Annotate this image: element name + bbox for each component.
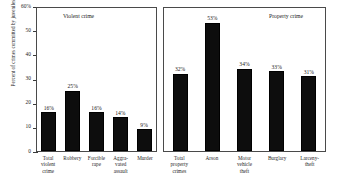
bar-value-label: 14%	[115, 110, 125, 116]
bar-value-label: 9%	[140, 122, 147, 128]
category-label: Burglary	[261, 155, 294, 189]
bar-slot: 16%	[37, 6, 61, 151]
bar	[41, 112, 56, 151]
bar	[65, 91, 80, 151]
category-label: Forciblerape	[84, 155, 108, 189]
y-axis-tick-label: 50	[26, 27, 31, 33]
bar-slot: 34%	[228, 6, 260, 151]
y-axis-tick-label: 10	[26, 123, 31, 129]
bar-value-label: 31%	[304, 69, 314, 75]
category-label: Motorvehicletheft	[228, 155, 261, 189]
category-labels-property-crime: TotalpropertycrimesArsonMotorvehiclethef…	[163, 155, 326, 189]
panel-violent-crime-bars: 16%25%16%14%9%	[37, 6, 156, 151]
bar-slot: 14%	[108, 6, 132, 151]
bar-slot: 32%	[164, 6, 196, 151]
bar-value-label: 16%	[44, 105, 54, 111]
bar-value-label: 53%	[207, 15, 217, 21]
panel-property-crime-bars: 32%53%34%33%31%	[164, 6, 325, 151]
category-label: Arson	[196, 155, 229, 189]
y-axis-tick-label: 60%	[21, 3, 31, 9]
bar-value-label: 16%	[91, 105, 101, 111]
bar-slot: 53%	[196, 6, 228, 151]
category-label: Larceny-theft	[293, 155, 326, 189]
bar-slot: 31%	[293, 6, 325, 151]
bar	[89, 112, 104, 151]
bar	[205, 23, 220, 151]
bar-slot: 33%	[261, 6, 293, 151]
y-axis: 60%50403020100	[0, 0, 40, 158]
y-axis-tick-mark	[33, 152, 38, 153]
bar-value-label: 34%	[239, 61, 249, 67]
bar	[301, 76, 316, 151]
category-label: Robbery	[60, 155, 84, 189]
chart-figure: Percent of crimes committed by juveniles…	[0, 0, 338, 190]
panel-property-crime: Property crime 32%53%34%33%31%	[163, 7, 326, 152]
category-label-row: TotalviolentcrimeRobberyForciblerapeAggr…	[36, 155, 326, 189]
bar	[113, 117, 128, 151]
bar-value-label: 33%	[272, 64, 282, 70]
bar	[237, 69, 252, 151]
bar	[137, 129, 152, 151]
category-label: Totalpropertycrimes	[163, 155, 196, 189]
bar	[269, 71, 284, 151]
panel-violent-crime: Violent crime 16%25%16%14%9%	[36, 7, 157, 152]
bar-slot: 16%	[85, 6, 109, 151]
y-axis-tick-label: 30	[26, 75, 31, 81]
bar-value-label: 25%	[68, 83, 78, 89]
bar-slot: 9%	[132, 6, 156, 151]
y-axis-tick-label: 20	[26, 99, 31, 105]
bar-value-label: 32%	[175, 66, 185, 72]
y-axis-tick-label: 40	[26, 51, 31, 57]
y-axis-tick-label: 0	[28, 148, 31, 154]
category-labels-violent-crime: TotalviolentcrimeRobberyForciblerapeAggr…	[36, 155, 157, 189]
category-label: Totalviolentcrime	[36, 155, 60, 189]
bar-slot: 25%	[61, 6, 85, 151]
category-label: Murder	[133, 155, 157, 189]
category-label: Aggra-vatedassault	[109, 155, 133, 189]
bar	[173, 74, 188, 151]
